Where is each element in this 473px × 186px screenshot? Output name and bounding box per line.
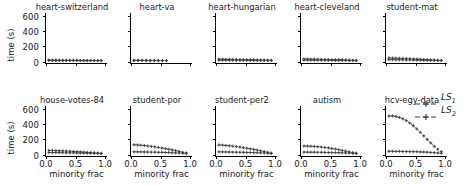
data-point-marker [398,116,401,119]
data-point-marker [150,145,153,148]
series-LS2 [47,59,102,62]
data-point-marker [249,151,252,154]
x-axis-tick-label: 0.0 [294,160,308,169]
data-point-marker [323,151,326,154]
x-axis-tick-label: 0.5 [324,160,338,169]
data-point-marker [327,146,330,149]
data-point-marker [256,59,259,62]
data-point-marker [249,147,252,150]
chart-panel-heart-va: heart-va [121,0,193,93]
plot-area [131,13,192,63]
data-point-marker [146,144,149,147]
data-point-marker [235,151,238,154]
data-point-marker [164,151,167,154]
data-point-marker [259,151,262,154]
data-point-marker [422,150,425,153]
legend-entry-ls2: LS2 [415,105,456,118]
data-point-marker [351,59,354,62]
data-point-marker [252,59,255,62]
axes [300,13,362,64]
panel-title: heart-va [140,2,175,12]
data-point-marker [266,59,269,62]
data-point-marker [228,150,231,153]
data-point-marker [224,150,227,153]
data-point-marker [309,151,312,154]
data-point-marker [153,59,156,62]
data-point-marker [259,59,262,62]
panel-title: heart-hungarian [208,2,275,12]
data-point-marker [337,59,340,62]
data-point-marker [143,144,146,147]
data-point-marker [86,59,89,62]
panel-title: heart-cleveland [294,2,359,12]
data-point-marker [355,152,358,155]
axes: 0200400600 [45,13,107,64]
y-axis-label-bottom: time (s) [6,108,16,168]
data-point-marker [387,115,390,118]
data-point-marker [58,151,61,154]
x-axis-tick [331,63,332,66]
data-point-marker [58,59,61,62]
data-point-marker [47,59,50,62]
data-point-marker [238,146,241,149]
data-point-marker [171,151,174,154]
data-point-marker [440,59,443,62]
data-point-marker [306,145,309,148]
data-point-marker [217,143,220,146]
data-point-marker [171,148,174,151]
data-point-marker [174,151,177,154]
plot-area [301,13,362,63]
data-point-marker [337,148,340,151]
y-axis-tick-label: 200 [23,136,39,145]
axes: 0.00.51.0minority frac [130,106,192,157]
data-point-marker [167,151,170,154]
data-point-marker [231,151,234,154]
data-point-marker [54,59,57,62]
data-point-marker [132,150,135,153]
data-point-marker [89,59,92,62]
data-point-marker [132,59,135,62]
data-point-marker [245,151,248,154]
y-axis-label-top: time (s) [6,15,16,75]
panel-title: house-votes-84 [40,95,104,105]
data-point-marker [334,147,337,150]
x-axis-tick [246,63,247,66]
x-axis-tick [105,63,106,66]
data-point-marker [217,150,220,153]
data-point-marker [429,59,432,62]
data-point-marker [157,146,160,149]
data-point-marker [140,59,143,62]
panel-title: student-per2 [215,95,269,105]
x-axis-tick [301,63,302,66]
data-point-marker [436,59,439,62]
x-axis-tick-label: 1.0 [98,160,112,169]
x-axis-tick [131,63,132,66]
data-point-marker [245,147,248,150]
data-point-marker [143,150,146,153]
x-axis-tick-label: 0.0 [39,160,53,169]
x-axis-label: minority frac [389,169,444,179]
data-point-marker [426,151,429,154]
x-axis-tick-label: 1.0 [353,160,367,169]
data-point-marker [221,144,224,147]
data-point-marker [93,152,96,155]
data-point-marker [252,148,255,151]
x-axis-tick [190,63,191,66]
y-axis-tick-label: 400 [23,121,39,130]
data-point-marker [391,114,394,117]
x-axis-tick [216,63,217,66]
y-axis-tick-label: 600 [23,13,39,22]
chart-panel-student-por: student-por0.00.51.0minority frac [121,93,193,186]
data-point-marker [153,151,156,154]
data-point-marker [320,146,323,149]
y-axis-tick-label: 400 [23,28,39,37]
legend-swatch-ls2 [415,107,437,117]
data-point-marker [344,151,347,154]
plot-area [216,13,277,63]
chart-panel-heart-hungarian: heart-hungarian [206,0,278,93]
data-point-marker [419,150,422,153]
data-point-marker [323,146,326,149]
data-point-marker [139,144,142,147]
data-point-marker [160,151,163,154]
data-point-marker [136,143,139,146]
